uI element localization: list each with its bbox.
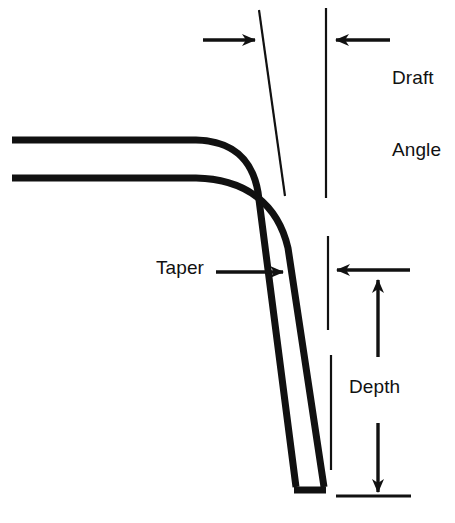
depth-label: Depth <box>349 375 400 399</box>
draft-angle-label-line1: Draft <box>392 66 441 90</box>
draft-angle-label-line2: Angle <box>392 138 441 162</box>
diagram-canvas <box>0 0 455 523</box>
draft-angle-label: Draft Angle <box>392 18 441 210</box>
slanted-reference-line <box>259 10 285 196</box>
diagram-root: Draft Angle Taper Depth <box>0 0 455 523</box>
taper-label: Taper <box>156 256 204 280</box>
